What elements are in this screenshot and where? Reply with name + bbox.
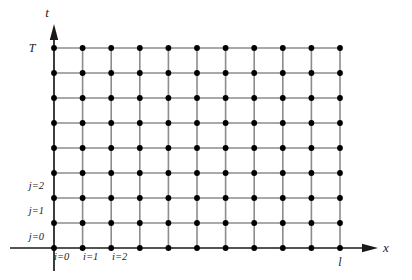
grid-node (166, 220, 172, 226)
grid-node (108, 145, 114, 151)
grid-node (280, 145, 286, 151)
row-label-j0: j=0 (27, 231, 45, 242)
grid-node (137, 120, 143, 126)
grid-node (194, 45, 200, 51)
grid-node (51, 170, 57, 176)
grid-node (337, 70, 343, 76)
t-axis-arrowhead-icon (50, 24, 58, 40)
row-label-j1: j=1 (27, 205, 44, 216)
grid-node (251, 245, 257, 251)
grid-node (194, 195, 200, 201)
grid-node (223, 170, 229, 176)
grid-node (51, 195, 57, 201)
grid-node (251, 120, 257, 126)
grid-node (309, 95, 315, 101)
grid-node (280, 120, 286, 126)
grid-node (166, 195, 172, 201)
x-max-label: l (338, 255, 342, 269)
grid-node (337, 145, 343, 151)
grid-node (337, 170, 343, 176)
column-label-i1: i=1 (83, 251, 98, 262)
grid-node (51, 95, 57, 101)
grid-node (108, 170, 114, 176)
grid-node (194, 170, 200, 176)
grid-node (280, 45, 286, 51)
grid-node (137, 145, 143, 151)
grid-node (137, 95, 143, 101)
grid-node (251, 145, 257, 151)
grid-node (194, 120, 200, 126)
grid-node (223, 145, 229, 151)
grid-node (80, 170, 86, 176)
grid-node (309, 145, 315, 151)
grid-node (51, 70, 57, 76)
grid-node (280, 245, 286, 251)
t-max-label: T (29, 41, 37, 55)
grid-node (280, 220, 286, 226)
grid-node (108, 95, 114, 101)
grid-node (166, 45, 172, 51)
x-axis-label: x (382, 240, 389, 255)
grid-node (337, 245, 343, 251)
grid-node (223, 195, 229, 201)
grid-node (108, 70, 114, 76)
grid-node (251, 195, 257, 201)
grid-node (108, 195, 114, 201)
grid-node (251, 70, 257, 76)
grid-node (51, 45, 57, 51)
grid-node (337, 220, 343, 226)
grid-node (108, 45, 114, 51)
grid-canvas: txTlj=2j=1j=0i=0i=1i=2 (0, 0, 412, 280)
grid-node (337, 195, 343, 201)
grid-node (51, 220, 57, 226)
grid-node (280, 195, 286, 201)
labels-group: txTlj=2j=1j=0i=0i=1i=2 (27, 5, 389, 269)
grid-node (280, 95, 286, 101)
grid-node (280, 70, 286, 76)
x-axis-arrowhead-icon (362, 244, 378, 252)
grid-node (251, 95, 257, 101)
grid-node (166, 95, 172, 101)
grid-node (166, 170, 172, 176)
grid-node (309, 70, 315, 76)
row-label-j2: j=2 (27, 180, 45, 191)
grid-node (309, 120, 315, 126)
grid-node (166, 120, 172, 126)
finite-difference-grid-figure: txTlj=2j=1j=0i=0i=1i=2 (0, 0, 412, 280)
grid-node (251, 170, 257, 176)
grid-node (137, 245, 143, 251)
grid-node (194, 145, 200, 151)
grid-node (166, 145, 172, 151)
grid-node (309, 45, 315, 51)
grid-node (194, 245, 200, 251)
grid-node (137, 70, 143, 76)
grid-node (80, 45, 86, 51)
grid-node (309, 245, 315, 251)
grid-node (80, 95, 86, 101)
grid-node (337, 45, 343, 51)
grid-node (80, 145, 86, 151)
grid-node (51, 120, 57, 126)
grid-node (80, 195, 86, 201)
grid-node (251, 45, 257, 51)
grid-node (137, 170, 143, 176)
grid-node (194, 220, 200, 226)
grid-node (223, 220, 229, 226)
grid-node (251, 220, 257, 226)
grid-node (309, 220, 315, 226)
grid-node (280, 170, 286, 176)
grid-node (80, 70, 86, 76)
grid-node (309, 195, 315, 201)
grid-node (194, 70, 200, 76)
grid-node (80, 220, 86, 226)
grid-node (223, 95, 229, 101)
grid-node (223, 70, 229, 76)
column-label-i0: i=0 (54, 251, 70, 262)
t-axis-label: t (45, 5, 49, 20)
column-label-i2: i=2 (112, 251, 128, 262)
grid-node (166, 70, 172, 76)
grid-node (137, 195, 143, 201)
grid-node (166, 245, 172, 251)
grid-node (137, 220, 143, 226)
grid-node (137, 45, 143, 51)
